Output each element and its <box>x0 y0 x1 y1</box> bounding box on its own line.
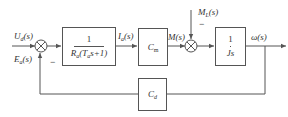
signal-label-torque: M(s) <box>168 33 185 42</box>
minus-sign-load: − <box>199 20 204 29</box>
summing-junction-1 <box>35 40 47 52</box>
input-label-ea: Ea(s) <box>14 55 32 65</box>
armature-transfer-block: 1 Ra(Tas+1) <box>62 27 116 66</box>
input-label-ml: ML(s) <box>198 8 218 18</box>
inertia-numerator: 1 <box>228 35 233 46</box>
minus-sign-feedback: − <box>50 58 55 67</box>
signal-label-ia: Ia(s) <box>118 32 134 42</box>
input-label-ud: Ud(s) <box>14 32 33 42</box>
armature-numerator: 1 <box>87 35 92 46</box>
inertia-transfer-block: 1 Js <box>215 27 246 66</box>
summing-junction-2 <box>185 40 197 52</box>
cm-label: Cm <box>148 42 159 53</box>
cd-label: Cd <box>148 89 157 100</box>
torque-constant-block: Cm <box>138 28 168 66</box>
feedback-constant-block: Cd <box>138 78 167 111</box>
output-label-omega: ω(s) <box>251 33 267 42</box>
inertia-denominator: Js <box>227 47 235 58</box>
armature-denominator: Ra(Tas+1) <box>71 47 108 59</box>
